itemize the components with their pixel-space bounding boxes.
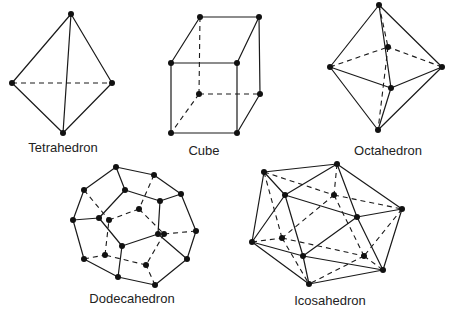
vertex-dot [385,44,391,50]
tetrahedron-label: Tetrahedron [28,140,97,155]
octahedron-label: Octahedron [354,143,422,158]
vertex-dot [399,206,405,212]
vertex-dot [256,14,262,20]
hidden-edge [109,209,139,220]
visible-edge [252,172,264,242]
vertex-dot [119,243,125,249]
visible-edge [158,234,187,259]
hidden-edge [252,238,282,242]
vertex-dot [234,130,240,136]
visible-edge [357,209,402,217]
visible-edge [118,246,122,277]
dodecahedron-figure [70,164,199,288]
hidden-edge [309,256,364,284]
visible-edge [383,209,402,270]
visible-edge [303,217,357,256]
vertex-dot [279,235,285,241]
hidden-edge [164,231,196,234]
vertex-dot [361,253,367,259]
vertex-dot [151,172,157,178]
vertex-dot [178,191,184,197]
vertex-dot [331,192,337,198]
vertex-dot [70,217,76,223]
hidden-edge [334,164,337,195]
vertex-dot [388,85,394,91]
hidden-edge [282,238,309,284]
hidden-edge [105,255,146,265]
vertex-dot [157,198,163,204]
hidden-edge [139,175,154,209]
vertex-dot [102,252,108,258]
hidden-edge [171,94,199,133]
visible-edge [379,5,442,67]
visible-edge [237,17,259,63]
visible-edge [71,14,112,83]
visible-edge [259,17,260,94]
visible-edge [84,167,116,190]
vertex-dot [380,267,386,273]
visible-edge [118,277,155,285]
vertex-dot [334,161,340,167]
visible-edge [12,14,71,83]
vertex-dot [168,60,174,66]
vertex-dot [300,253,306,259]
visible-edge [237,94,260,133]
dodecahedron-label: Dodecahedron [89,291,174,306]
vertex-dot [197,14,203,20]
cube-label: Cube [188,143,219,158]
vertex-dot [143,262,149,268]
vertex-dot [60,130,66,136]
hidden-edge [84,255,105,259]
vertex-dot [249,239,255,245]
vertex-dot [68,11,74,17]
visible-edge [73,190,84,220]
icosahedron-label: Icosahedron [294,293,366,308]
visible-edge [252,195,285,242]
hidden-edge [146,234,164,265]
vertex-dot [375,127,381,133]
vertex-dot [96,215,102,221]
vertex-dot [136,206,142,212]
vertex-dot [122,187,128,193]
visible-edge [337,164,357,217]
visible-edge [73,220,84,259]
icosahedron-figure [249,161,405,287]
visible-edge [63,14,71,133]
hidden-edge [139,209,164,234]
visible-edge [154,175,181,194]
cube-figure [168,14,263,136]
visible-edge [73,218,99,220]
visible-edge [63,83,112,133]
visible-edge [84,259,118,277]
vertex-dot [9,80,15,86]
vertex-dot [81,187,87,193]
hidden-edge [199,17,200,94]
visible-edge [285,195,357,217]
visible-edge [330,5,379,67]
hidden-edge [388,47,442,67]
visible-edge [116,167,154,175]
vertex-dot [354,214,360,220]
visible-edge [160,194,181,201]
visible-edge [330,67,378,130]
visible-edge [309,270,383,284]
visible-edge [181,194,196,231]
platonic-solids-diagram: Tetrahedron Cube Octahedron Dodecahedron… [0,0,450,318]
vertex-dot [113,164,119,170]
visible-edge [330,67,391,88]
vertex-dot [327,64,333,70]
vertex-dot [155,231,161,237]
octahedron-figure [327,2,445,133]
tetrahedron-figure [9,11,115,136]
visible-edge [357,217,383,270]
vertex-dot [184,256,190,262]
visible-edge [187,231,196,259]
vertex-dot [234,60,240,66]
vertex-dot [376,2,382,8]
vertex-dot [109,80,115,86]
vertex-dot [306,281,312,287]
vertex-dot [439,64,445,70]
hidden-edge [364,209,402,256]
hidden-edge [334,195,364,256]
vertex-dot [261,169,267,175]
